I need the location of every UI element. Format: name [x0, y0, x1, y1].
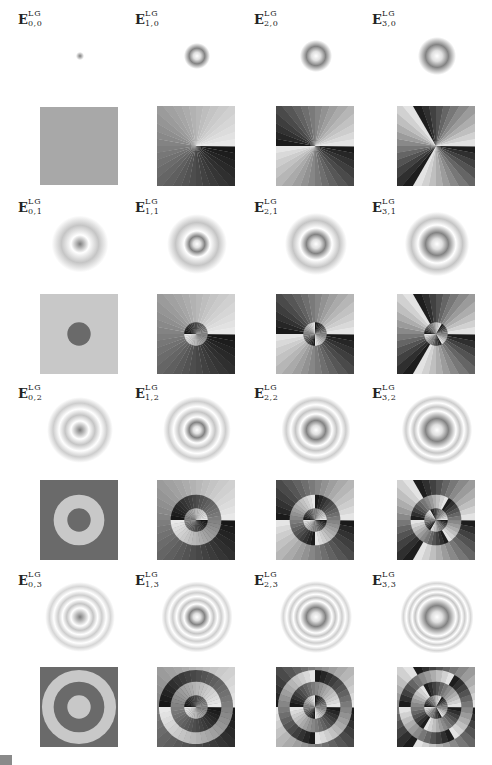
mode-label-base: E [254, 12, 264, 27]
mode-label-base: E [254, 386, 264, 401]
amplitude-panel [157, 16, 237, 96]
mode-label-base: E [372, 12, 382, 27]
mode-label-base: E [372, 573, 382, 588]
mode-label: ELG2,2 [254, 387, 264, 400]
mode-label: ELG1,3 [135, 574, 145, 587]
amplitude-panel [397, 577, 477, 657]
mode-label-base: E [372, 200, 382, 215]
mode-label: ELG0,0 [18, 13, 28, 26]
amplitude-panel [397, 390, 477, 470]
amplitude-panel [397, 16, 477, 96]
mode-label-sub: 3,1 [382, 208, 396, 216]
mode-label-sub: 3,2 [382, 394, 396, 402]
amplitude-panel [40, 577, 120, 657]
phase-panel [157, 667, 235, 747]
mode-label: ELG2,3 [254, 574, 264, 587]
phase-panel [276, 106, 354, 186]
phase-panel [397, 106, 475, 186]
mode-label: ELG1,2 [135, 387, 145, 400]
amplitude-panel [157, 390, 237, 470]
amplitude-panel [276, 16, 356, 96]
mode-label: ELG0,1 [18, 201, 28, 214]
mode-label-base: E [254, 573, 264, 588]
phase-panel [397, 294, 475, 374]
mode-label: ELG1,1 [135, 201, 145, 214]
mode-label-base: E [135, 386, 145, 401]
mode-label: ELG2,1 [254, 201, 264, 214]
mode-label-base: E [18, 573, 28, 588]
mode-label: ELG0,2 [18, 387, 28, 400]
mode-label-sub: 3,0 [382, 20, 396, 28]
phase-panel [157, 106, 235, 186]
mode-label: ELG1,0 [135, 13, 145, 26]
phase-panel [276, 294, 354, 374]
mode-label-sub: 3,3 [382, 581, 396, 589]
mode-label-sup: LG [382, 198, 396, 206]
mode-label-base: E [18, 386, 28, 401]
amplitude-panel [276, 577, 356, 657]
mode-label-base: E [18, 200, 28, 215]
mode-label-sup: LG [382, 10, 396, 18]
caption-marker [0, 755, 12, 765]
mode-label-base: E [372, 386, 382, 401]
amplitude-panel [276, 390, 356, 470]
amplitude-panel [276, 204, 356, 284]
phase-panel [157, 480, 235, 560]
mode-label: ELG3,3 [372, 574, 382, 587]
amplitude-panel [40, 204, 120, 284]
mode-label-base: E [135, 12, 145, 27]
phase-panel [397, 667, 475, 747]
mode-label-sup: LG [382, 571, 396, 579]
phase-panel [397, 480, 475, 560]
mode-label: ELG0,3 [18, 574, 28, 587]
mode-label: ELG3,0 [372, 13, 382, 26]
mode-label: ELG2,0 [254, 13, 264, 26]
phase-panel [40, 106, 118, 186]
mode-label-base: E [135, 200, 145, 215]
amplitude-panel [157, 577, 237, 657]
mode-label-sup: LG [382, 384, 396, 392]
phase-panel [276, 667, 354, 747]
amplitude-panel [40, 16, 120, 96]
mode-label: ELG3,2 [372, 387, 382, 400]
phase-panel [276, 480, 354, 560]
amplitude-panel [397, 204, 477, 284]
mode-label: ELG3,1 [372, 201, 382, 214]
amplitude-panel [157, 204, 237, 284]
phase-panel [157, 294, 235, 374]
phase-panel [40, 480, 118, 560]
figure-caption [0, 753, 492, 765]
phase-panel [40, 294, 118, 374]
mode-label-base: E [18, 12, 28, 27]
mode-label-base: E [254, 200, 264, 215]
phase-panel [40, 667, 118, 747]
mode-label-base: E [135, 573, 145, 588]
amplitude-panel [40, 390, 120, 470]
